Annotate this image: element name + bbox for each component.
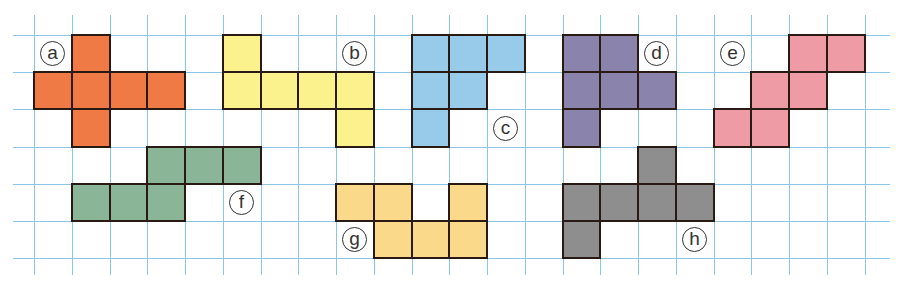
- shape-cell: [222, 146, 262, 185]
- shape-cell: [637, 146, 677, 185]
- shape-cell: [146, 71, 186, 110]
- shape-cell: [750, 108, 790, 148]
- shape-cell: [448, 183, 488, 222]
- shape-cell: [750, 71, 790, 110]
- shape-cell: [411, 34, 450, 73]
- grid-vertical-line: [34, 15, 35, 275]
- shape-label: a: [40, 41, 65, 66]
- shape-cell: [71, 108, 111, 148]
- grid-vertical-line: [676, 15, 677, 275]
- shape-cell: [562, 34, 601, 73]
- shape-label: b: [342, 41, 367, 66]
- grid-diagram: abcdefgh: [0, 0, 906, 293]
- shape-cell: [486, 34, 526, 73]
- grid-vertical-line: [147, 15, 148, 275]
- shape-cell: [335, 108, 375, 148]
- shape-cell: [562, 183, 601, 222]
- shape-cell: [562, 71, 601, 110]
- shape-cell: [411, 71, 450, 110]
- shape-cell: [260, 71, 299, 110]
- shape-cell: [411, 108, 450, 148]
- shape-cell: [335, 71, 375, 110]
- grid-vertical-line: [298, 15, 299, 275]
- shape-label: f: [229, 190, 254, 215]
- shape-cell: [373, 183, 413, 222]
- shape-cell: [222, 34, 262, 73]
- shape-cell: [146, 183, 186, 222]
- shape-label: e: [720, 41, 745, 66]
- shape-cell: [71, 183, 111, 222]
- shape-cell: [826, 34, 866, 73]
- shape-cell: [448, 34, 488, 73]
- shape-cell: [71, 34, 111, 73]
- shape-cell: [411, 220, 450, 259]
- shape-cell: [788, 71, 828, 110]
- shape-cell: [335, 183, 375, 222]
- shape-cell: [373, 220, 413, 259]
- shape-cell: [675, 183, 715, 222]
- shape-label: d: [644, 41, 669, 66]
- shape-cell: [71, 71, 111, 110]
- shape-cell: [109, 71, 148, 110]
- shape-label: g: [342, 227, 367, 252]
- shape-cell: [637, 183, 677, 222]
- shape-cell: [713, 108, 752, 148]
- shape-cell: [562, 220, 601, 259]
- shape-cell: [599, 183, 639, 222]
- shape-cell: [637, 71, 677, 110]
- shape-cell: [184, 146, 224, 185]
- shape-cell: [33, 71, 73, 110]
- shape-cell: [599, 34, 639, 73]
- shape-cell: [222, 71, 262, 110]
- shape-cell: [448, 220, 488, 259]
- shape-label: c: [493, 116, 518, 141]
- shape-label: h: [682, 227, 707, 252]
- shape-cell: [109, 183, 148, 222]
- shape-cell: [448, 71, 488, 110]
- shape-cell: [297, 71, 337, 110]
- shape-cell: [788, 34, 828, 73]
- shape-cell: [599, 71, 639, 110]
- shape-cell: [146, 146, 186, 185]
- grid-vertical-line: [185, 15, 186, 275]
- shape-cell: [562, 108, 601, 148]
